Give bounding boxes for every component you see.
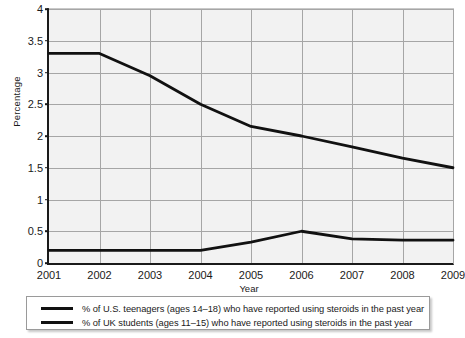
x-tick-label: 2003: [138, 269, 162, 281]
x-tick-label: 2009: [441, 269, 465, 281]
legend-line-swatch-uk: [41, 321, 73, 324]
x-tick-label: 2005: [239, 269, 263, 281]
x-tick-label: 2008: [390, 269, 414, 281]
x-tick-label: 2007: [340, 269, 364, 281]
y-axis-title: Percentage: [11, 62, 22, 142]
x-tick-label: 2002: [87, 269, 111, 281]
gridline-vertical: [453, 9, 454, 263]
legend-item-uk: % of UK students (ages 11–15) who have r…: [27, 316, 429, 329]
legend-line-swatch-us: [41, 307, 73, 310]
x-tick-label: 2004: [188, 269, 212, 281]
series-line-uk: [49, 231, 453, 250]
x-tick-label: 2001: [37, 269, 61, 281]
series-lines: [49, 9, 453, 263]
legend-label-uk: % of UK students (ages 11–15) who have r…: [82, 318, 412, 328]
legend-item-us: % of U.S. teenagers (ages 14–18) who hav…: [27, 302, 429, 315]
plot-area: 00.511.522.533.54 2001200220032004200520…: [47, 8, 454, 265]
chart-legend: % of U.S. teenagers (ages 14–18) who hav…: [26, 296, 430, 330]
x-tick-label: 2006: [289, 269, 313, 281]
series-line-us: [49, 53, 453, 167]
legend-label-us: % of U.S. teenagers (ages 14–18) who hav…: [82, 304, 424, 314]
x-axis-title: Year: [47, 283, 451, 294]
